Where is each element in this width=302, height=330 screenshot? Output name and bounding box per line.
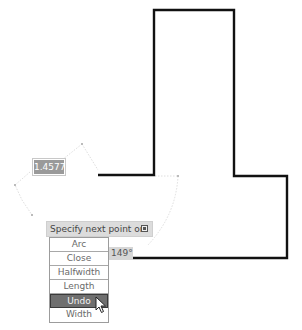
menu-item-length[interactable]: Length <box>50 280 108 294</box>
menu-item-halfwidth[interactable]: Halfwidth <box>50 266 108 280</box>
prompt-text: Specify next point or <box>50 222 143 236</box>
down-arrow-icon[interactable] <box>141 225 148 232</box>
command-prompt-tooltip: Specify next point or <box>46 221 153 237</box>
menu-item-close[interactable]: Close <box>50 252 108 266</box>
length-input-box[interactable]: 1.4577 <box>32 158 66 176</box>
cursor-arrow-icon <box>95 296 107 314</box>
angle-input-box[interactable]: 149° <box>109 247 133 260</box>
length-value: 1.4577 <box>34 160 64 174</box>
angle-value: 149° <box>111 248 133 258</box>
menu-item-arc[interactable]: Arc <box>50 238 108 252</box>
